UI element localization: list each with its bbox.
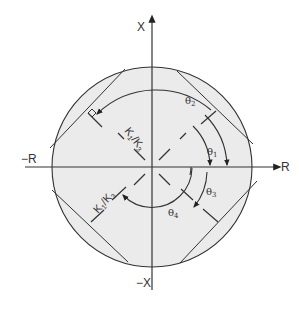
diagram-canvas: X −X R −R θ2 θ1 θ3 θ4 K1/K3 K1/K3 <box>0 0 299 309</box>
r-axis-label: R <box>281 160 290 174</box>
neg-x-axis-label: −X <box>136 276 151 290</box>
neg-r-axis-label: −R <box>21 152 37 166</box>
x-axis-label: X <box>137 20 145 34</box>
